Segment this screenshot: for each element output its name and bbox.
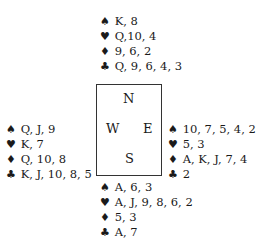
north-spades-cards: K, 8	[115, 14, 138, 28]
west-diamonds-cards: Q, 10, 8	[21, 152, 66, 166]
north-hand: ♠ K, 8 ♥ Q,10, 4 ♦ 9, 6, 2 ♣ Q, 9, 6, 4,…	[100, 14, 182, 74]
south-hearts-cards: A, J, 9, 8, 6, 2	[115, 195, 193, 209]
club-icon: ♣	[100, 59, 111, 74]
spade-icon: ♠	[100, 14, 111, 29]
club-icon: ♣	[6, 167, 17, 182]
south-clubs: ♣ A, 7	[100, 225, 193, 240]
east-hand: ♠ 10, 7, 5, 4, 2 ♥ 5, 3 ♦ A, K, J, 7, 4 …	[168, 122, 256, 182]
north-diamonds-cards: 9, 6, 2	[115, 44, 152, 58]
compass-west: W	[106, 121, 119, 136]
west-hearts-cards: K, 7	[21, 137, 44, 151]
west-hearts: ♥ K, 7	[6, 137, 92, 152]
east-diamonds-cards: A, K, J, 7, 4	[183, 152, 248, 166]
table-compass-box: N W E S	[96, 84, 162, 176]
east-hearts-cards: 5, 3	[183, 137, 205, 151]
south-diamonds-cards: 5, 3	[115, 210, 137, 224]
west-diamonds: ♦ Q, 10, 8	[6, 152, 92, 167]
east-diamonds: ♦ A, K, J, 7, 4	[168, 152, 256, 167]
south-clubs-cards: A, 7	[115, 225, 138, 239]
south-spades-cards: A, 6, 3	[115, 180, 153, 194]
north-clubs: ♣ Q, 9, 6, 4, 3	[100, 59, 182, 74]
compass-south: S	[125, 151, 134, 166]
south-diamonds: ♦ 5, 3	[100, 210, 193, 225]
east-clubs-cards: 2	[183, 167, 190, 181]
heart-icon: ♥	[100, 29, 111, 44]
west-hand: ♠ Q, J, 9 ♥ K, 7 ♦ Q, 10, 8 ♣ K, J, 10, …	[6, 122, 92, 182]
spade-icon: ♠	[168, 122, 179, 137]
spade-icon: ♠	[6, 122, 17, 137]
north-diamonds: ♦ 9, 6, 2	[100, 44, 182, 59]
east-spades: ♠ 10, 7, 5, 4, 2	[168, 122, 256, 137]
west-spades: ♠ Q, J, 9	[6, 122, 92, 137]
compass-north: N	[123, 91, 134, 106]
north-hearts: ♥ Q,10, 4	[100, 29, 182, 44]
diamond-icon: ♦	[168, 152, 179, 167]
east-hearts: ♥ 5, 3	[168, 137, 256, 152]
east-spades-cards: 10, 7, 5, 4, 2	[183, 122, 256, 136]
heart-icon: ♥	[100, 195, 111, 210]
diamond-icon: ♦	[100, 210, 111, 225]
north-hearts-cards: Q,10, 4	[115, 29, 157, 43]
compass-east: E	[143, 121, 153, 136]
diamond-icon: ♦	[6, 152, 17, 167]
north-clubs-cards: Q, 9, 6, 4, 3	[115, 59, 182, 73]
west-clubs: ♣ K, J, 10, 8, 5	[6, 167, 92, 182]
west-spades-cards: Q, J, 9	[21, 122, 56, 136]
south-hearts: ♥ A, J, 9, 8, 6, 2	[100, 195, 193, 210]
south-hand: ♠ A, 6, 3 ♥ A, J, 9, 8, 6, 2 ♦ 5, 3 ♣ A,…	[100, 180, 193, 240]
heart-icon: ♥	[6, 137, 17, 152]
west-clubs-cards: K, J, 10, 8, 5	[21, 167, 92, 181]
south-spades: ♠ A, 6, 3	[100, 180, 193, 195]
north-spades: ♠ K, 8	[100, 14, 182, 29]
heart-icon: ♥	[168, 137, 179, 152]
diamond-icon: ♦	[100, 44, 111, 59]
spade-icon: ♠	[100, 180, 111, 195]
club-icon: ♣	[100, 225, 111, 240]
